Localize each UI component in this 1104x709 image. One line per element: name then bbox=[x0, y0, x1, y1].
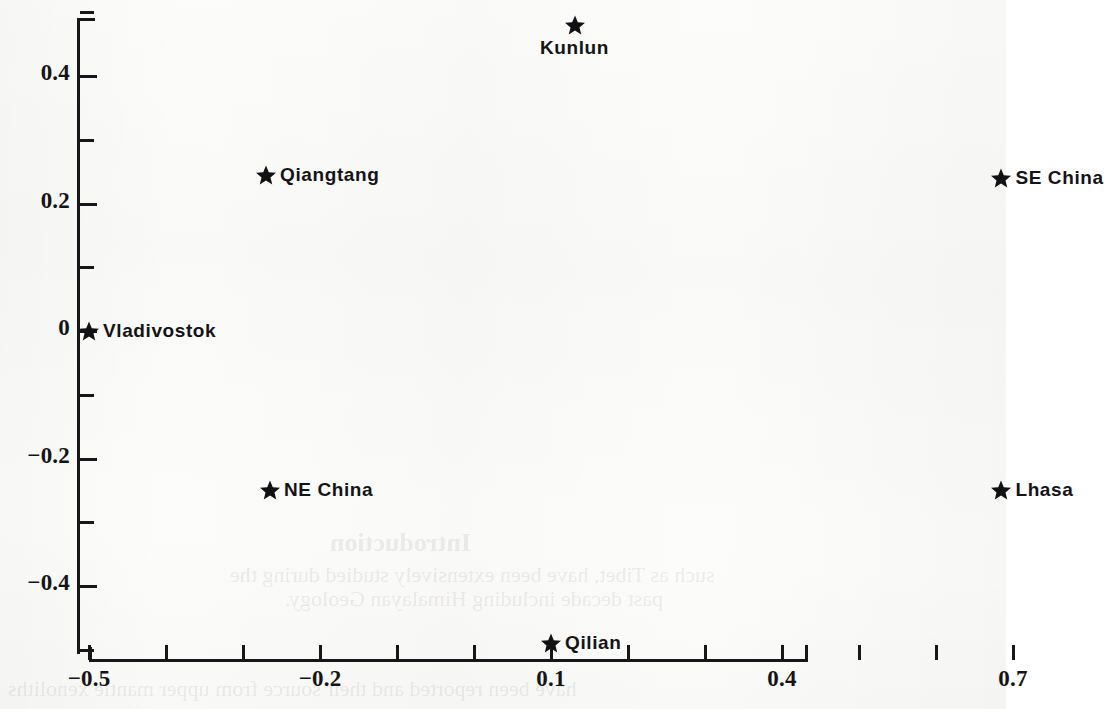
x-tick bbox=[704, 645, 707, 660]
data-point-label: SE China bbox=[1015, 167, 1103, 189]
x-tick bbox=[473, 645, 476, 660]
y-tick-label: −0.4 bbox=[27, 570, 70, 596]
star-marker-icon bbox=[564, 14, 586, 36]
data-point[interactable]: Kunlun bbox=[540, 14, 609, 59]
x-axis-right-cap bbox=[805, 645, 808, 662]
y-tick-label: 0.4 bbox=[41, 60, 70, 86]
data-point-label: Kunlun bbox=[540, 37, 609, 59]
y-tick-label: 0 bbox=[58, 315, 70, 341]
star-marker-icon bbox=[255, 164, 277, 186]
y-tick bbox=[80, 649, 94, 652]
x-axis-line bbox=[89, 659, 808, 662]
star-marker-icon bbox=[78, 320, 100, 342]
x-tick bbox=[1012, 645, 1015, 660]
x-tick bbox=[781, 645, 784, 660]
x-tick bbox=[396, 645, 399, 660]
x-tick bbox=[935, 645, 938, 660]
y-tick bbox=[80, 458, 97, 461]
y-tick bbox=[80, 139, 94, 142]
y-tick-label: 0.2 bbox=[41, 188, 70, 214]
y-tick bbox=[80, 394, 94, 397]
data-point-label: NE China bbox=[284, 479, 373, 501]
star-marker-icon bbox=[990, 167, 1012, 189]
data-point-label: Qiangtang bbox=[280, 164, 379, 186]
data-point[interactable]: Lhasa bbox=[990, 479, 1073, 501]
x-tick bbox=[165, 645, 168, 660]
data-point-label: Vladivostok bbox=[103, 320, 216, 342]
x-tick bbox=[88, 645, 91, 660]
x-tick-label: −0.2 bbox=[299, 666, 342, 692]
data-point-label: Lhasa bbox=[1015, 479, 1073, 501]
data-point[interactable]: SE China bbox=[990, 167, 1103, 189]
data-point-label: Qilian bbox=[565, 632, 621, 654]
data-point[interactable]: Vladivostok bbox=[78, 320, 216, 342]
x-tick bbox=[242, 645, 245, 660]
data-point[interactable]: Qilian bbox=[540, 632, 621, 654]
y-tick bbox=[80, 11, 94, 14]
x-tick bbox=[319, 645, 322, 660]
data-point[interactable]: NE China bbox=[259, 479, 373, 501]
x-tick bbox=[627, 645, 630, 660]
x-tick-label: 0.4 bbox=[767, 666, 796, 692]
x-tick-label: −0.5 bbox=[68, 666, 111, 692]
x-tick-label: 0.1 bbox=[536, 666, 565, 692]
y-tick bbox=[80, 203, 97, 206]
y-tick-label: −0.2 bbox=[27, 443, 70, 469]
data-point[interactable]: Qiangtang bbox=[255, 164, 379, 186]
x-tick-label: 0.7 bbox=[998, 666, 1027, 692]
star-marker-icon bbox=[259, 479, 281, 501]
star-marker-icon bbox=[990, 479, 1012, 501]
y-tick bbox=[80, 266, 94, 269]
y-axis-top-cap bbox=[77, 18, 95, 21]
y-tick bbox=[80, 521, 94, 524]
y-tick bbox=[80, 75, 97, 78]
star-marker-icon bbox=[540, 632, 562, 654]
x-tick bbox=[858, 645, 861, 660]
y-tick bbox=[80, 585, 97, 588]
